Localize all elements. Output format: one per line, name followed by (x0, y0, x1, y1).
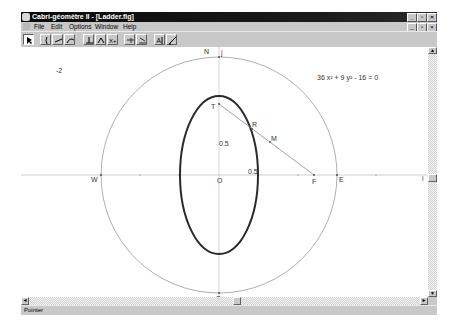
label-f: F (312, 178, 316, 185)
drawing-canvas[interactable]: -2 36 x² + 9 y² - 16 = 0 N j S W E O T F… (21, 47, 428, 297)
scrollbar-corner (428, 297, 437, 305)
minimize-button[interactable]: _ (407, 13, 417, 22)
display-tool-button[interactable]: A (154, 34, 165, 45)
label-w: W (91, 176, 98, 183)
horizontal-scroll-thumb[interactable] (233, 297, 241, 305)
text-label-icon: A (155, 35, 166, 46)
menu-file[interactable]: File (34, 22, 44, 31)
point-icon (41, 35, 52, 46)
label-r: R (252, 121, 257, 128)
document-icon[interactable] (23, 23, 30, 30)
line-icon (53, 35, 64, 46)
pointer-tool-button[interactable] (23, 34, 34, 45)
label-j: j (220, 49, 223, 57)
status-bar: Pointer (21, 305, 437, 315)
cabri-window: Cabri-géomètre II - [Ladder.fig] _ ▫ × F… (21, 12, 437, 314)
svg-text:X+: X+ (109, 38, 117, 44)
construct-tool-button[interactable] (83, 34, 94, 45)
menu-window[interactable]: Window (95, 22, 118, 31)
label-o: O (217, 177, 223, 184)
transform-icon (96, 35, 107, 46)
status-text: Pointer (24, 306, 43, 315)
scroll-right-button[interactable]: ► (420, 297, 428, 305)
lines-tool-button[interactable] (52, 34, 63, 45)
measure-horizontal: 0.5 (248, 168, 258, 175)
horizontal-scrollbar[interactable]: ◄ ► (21, 297, 428, 305)
macro-tool-button[interactable]: X+ (107, 34, 118, 45)
draw-tool-button[interactable] (166, 34, 177, 45)
vertical-scroll-thumb[interactable] (428, 174, 437, 182)
transform-tool-button[interactable] (95, 34, 106, 45)
corner-value: -2 (56, 67, 62, 74)
perpendicular-icon (84, 35, 95, 46)
curve-icon (65, 35, 76, 46)
menu-help[interactable]: Help (123, 22, 136, 31)
curves-tool-button[interactable] (64, 34, 75, 45)
pencil-icon (167, 35, 178, 46)
menu-bar: File Edit Options Window Help _ ▫ × (21, 22, 437, 31)
svg-text:A: A (157, 37, 162, 44)
label-n: N (204, 48, 209, 55)
measure-vertical: 0.5 (219, 140, 229, 147)
ladder-segment[interactable] (219, 104, 314, 175)
restore-button[interactable]: ▫ (417, 13, 427, 22)
menu-options[interactable]: Options (69, 22, 91, 31)
macro-icon: X+ (108, 35, 119, 46)
equation-label[interactable]: 36 x² + 9 y² - 16 = 0 (317, 74, 378, 82)
close-button[interactable]: × (427, 13, 437, 22)
label-m: M (271, 135, 277, 142)
label-i: i (422, 175, 424, 182)
scroll-down-button[interactable]: ▼ (428, 290, 437, 297)
geometry-figure: -2 36 x² + 9 y² - 16 = 0 N j S W E O T F… (21, 47, 428, 297)
arrow-pointer-icon (24, 35, 35, 46)
points-tool-button[interactable] (40, 34, 51, 45)
app-icon[interactable] (22, 13, 30, 21)
measure-icon (137, 35, 148, 46)
vertical-scrollbar[interactable]: ▲ ▼ (428, 47, 437, 297)
check-property-icon (125, 35, 136, 46)
title-bar[interactable]: Cabri-géomètre II - [Ladder.fig] _ ▫ × (21, 12, 437, 22)
label-t: T (211, 103, 216, 110)
scroll-left-button[interactable]: ◄ (21, 297, 29, 305)
label-e: E (339, 176, 344, 183)
check-property-tool-button[interactable] (124, 34, 135, 45)
scroll-up-button[interactable]: ▲ (428, 47, 437, 54)
menu-edit[interactable]: Edit (51, 22, 62, 31)
toolbar: X+ A (21, 31, 437, 48)
window-title: Cabri-géomètre II - [Ladder.fig] (32, 12, 134, 22)
measure-tool-button[interactable] (136, 34, 147, 45)
